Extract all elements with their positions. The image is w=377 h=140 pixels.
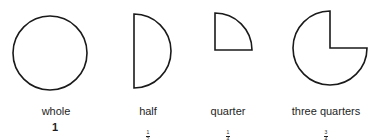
three-quarter-circle-icon xyxy=(293,11,367,85)
full-circle-icon xyxy=(13,16,87,90)
label-half: half xyxy=(139,105,157,117)
fraction-whole: 1 xyxy=(52,121,58,133)
label-quarter: quarter xyxy=(211,105,246,117)
fraction-three-quarters-denominator: 4 xyxy=(325,137,328,140)
label-three-quarters: three quarters xyxy=(292,105,360,117)
fraction-three-quarters: 3 4 xyxy=(324,120,328,140)
fraction-three-quarters-numerator: 3 xyxy=(325,130,328,135)
label-whole: whole xyxy=(42,105,71,117)
half-circle-icon xyxy=(134,14,171,88)
fraction-half-numerator: 1 xyxy=(147,130,150,135)
fraction-quarter-numerator: 1 xyxy=(227,130,230,135)
fraction-shapes-diagram xyxy=(0,0,377,140)
fraction-half-denominator: 2 xyxy=(147,137,150,140)
fraction-quarter-denominator: 4 xyxy=(227,137,230,140)
fraction-quarter: 1 4 xyxy=(226,120,230,140)
fraction-half: 1 2 xyxy=(146,120,150,140)
quarter-circle-icon xyxy=(215,13,252,50)
